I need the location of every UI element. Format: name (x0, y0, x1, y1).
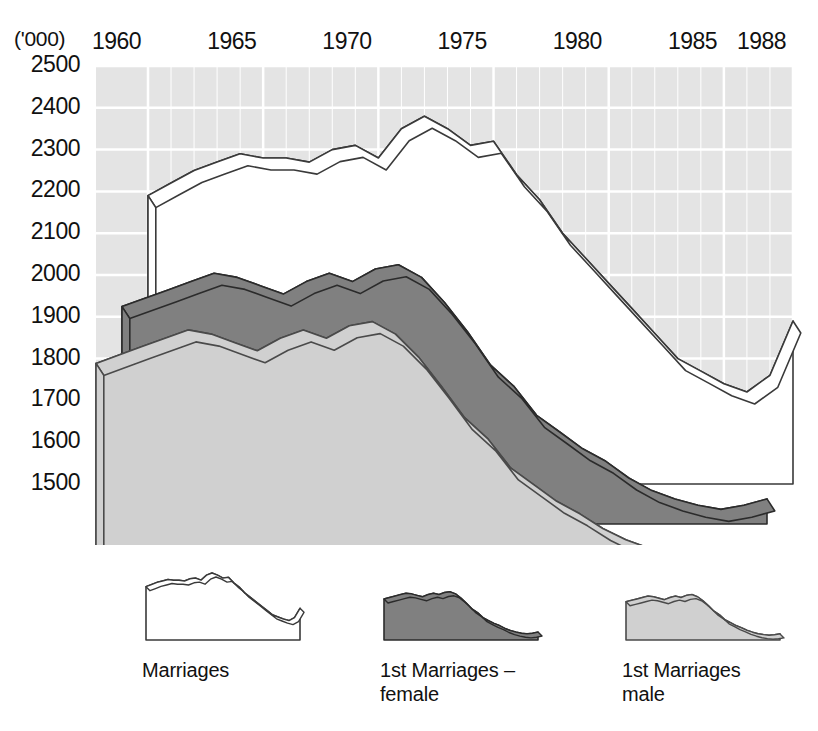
legend-swatch (378, 562, 548, 650)
legend-label: Marriages (142, 658, 229, 682)
legend-item[interactable]: 1st Marriages male (620, 562, 790, 650)
legend-swatch (620, 562, 790, 650)
legend-label: 1st Marriages – female (380, 658, 515, 706)
marriages-area-chart: ('000) 250024002300220021002000190018001… (0, 0, 818, 731)
legend-item[interactable]: 1st Marriages – female (378, 562, 548, 650)
plot-area (0, 0, 818, 545)
legend-swatch (140, 562, 310, 650)
legend-label: 1st Marriages male (622, 658, 741, 706)
legend-item[interactable]: Marriages (140, 562, 310, 650)
